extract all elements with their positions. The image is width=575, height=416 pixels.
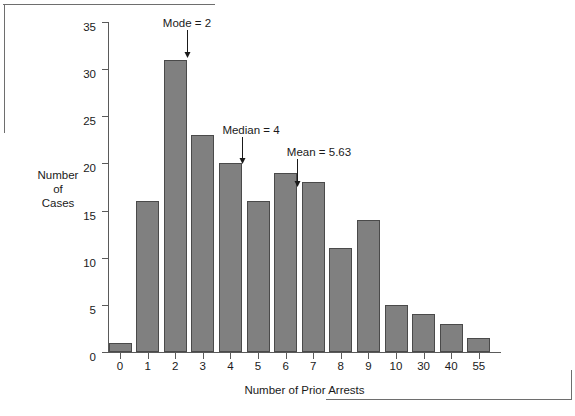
histogram-bar — [412, 314, 435, 352]
x-axis-tick — [203, 353, 204, 359]
y-axis-tick-label-text: 10 — [56, 258, 96, 270]
annotation-arrow-head — [294, 181, 300, 187]
histogram-bar — [329, 248, 352, 352]
histogram-bar — [302, 182, 325, 352]
x-axis-tick — [424, 353, 425, 359]
x-axis-tick — [451, 353, 452, 359]
x-axis-tick — [286, 353, 287, 359]
x-axis-title: Number of Prior Arrests — [0, 384, 575, 396]
histogram-bar — [467, 338, 490, 352]
annotation-arrow-head — [239, 158, 245, 164]
y-axis-tick — [102, 211, 109, 212]
annotation-label: Median = 4 — [222, 125, 279, 137]
histogram-bar — [136, 201, 159, 352]
annotation-label: Mean = 5.63 — [287, 147, 351, 159]
y-axis-title-line: of — [26, 182, 90, 196]
y-axis-title-line: Cases — [26, 196, 90, 210]
y-axis-tick — [102, 69, 109, 70]
annotation-label: Mode = 2 — [163, 18, 211, 30]
x-axis-line — [108, 352, 501, 353]
annotation-arrow-head — [184, 52, 190, 58]
histogram-bar — [219, 163, 242, 352]
histogram-bar — [440, 324, 463, 352]
histogram-bar — [357, 220, 380, 352]
plot-area: 05101520253035 012345678910304055 Mode =… — [0, 0, 575, 416]
x-axis-tick — [175, 353, 176, 359]
x-axis-tick — [258, 353, 259, 359]
x-axis-tick — [396, 353, 397, 359]
y-axis-tick-label-text: 30 — [56, 69, 96, 81]
y-axis-title: NumberofCases — [26, 168, 90, 210]
histogram-bar — [164, 60, 187, 352]
x-axis-tick — [148, 353, 149, 359]
y-axis-tick — [102, 116, 109, 117]
y-axis-title-line: Number — [26, 168, 90, 182]
histogram-bar — [274, 173, 297, 352]
annotation-arrow — [293, 159, 302, 186]
x-axis-tick — [313, 353, 314, 359]
y-axis-tick-label-text: 35 — [56, 22, 96, 34]
x-axis-tick — [230, 353, 231, 359]
x-axis-tick — [341, 353, 342, 359]
annotation-arrow — [238, 137, 247, 163]
histogram-bar — [109, 343, 132, 352]
histogram-bar — [191, 135, 214, 352]
histogram-bar — [385, 305, 408, 352]
y-axis-tick-label-text: 5 — [56, 305, 96, 317]
annotation-arrow — [183, 30, 192, 57]
y-axis-tick-label-text: 0 — [56, 352, 96, 364]
y-axis-tick — [102, 305, 109, 306]
x-axis-tick-label: 55 — [459, 361, 499, 373]
histogram-bar — [247, 201, 270, 352]
y-axis-tick — [102, 258, 109, 259]
y-axis-tick-label-text: 25 — [56, 116, 96, 128]
y-axis-tick — [102, 22, 109, 23]
x-axis-tick — [479, 353, 480, 359]
x-axis-title-text: Number of Prior Arrests — [244, 384, 364, 396]
y-axis-tick — [102, 352, 109, 353]
histogram-figure: 05101520253035 012345678910304055 Mode =… — [0, 0, 575, 416]
x-axis-tick — [368, 353, 369, 359]
y-axis-tick — [102, 163, 109, 164]
y-axis-tick-label-text: 15 — [56, 211, 96, 223]
y-axis-line — [108, 22, 109, 353]
x-axis-tick — [120, 353, 121, 359]
